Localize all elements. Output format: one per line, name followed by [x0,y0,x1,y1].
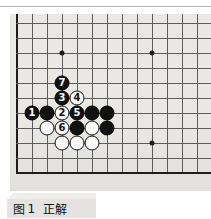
figure-caption: 图 1 正解 [7,199,96,218]
stone-black[interactable] [40,106,55,121]
move-number: 6 [59,123,66,133]
move-number: 1 [29,108,36,118]
grid-line-horizontal [16,83,211,84]
stone-black[interactable] [100,121,115,136]
star-point [150,51,155,56]
grid-line-horizontal [16,38,211,39]
grid-line-horizontal [16,53,211,54]
caption-prefix: 图 [13,200,26,217]
grid-line-horizontal [16,158,211,159]
stone-black-move-7[interactable]: 7 [55,76,70,91]
board-edge-bottom [16,172,211,174]
caption-title: 正解 [43,200,68,217]
star-point [60,51,65,56]
stone-white[interactable] [85,121,100,136]
grid-line-horizontal [16,143,211,144]
stone-black[interactable] [70,121,85,136]
grid-line-horizontal [16,98,211,99]
move-number: 3 [59,93,66,103]
grid-line-horizontal [16,23,211,24]
caption-number: 1 [28,202,36,216]
stone-white[interactable] [70,136,85,151]
figure-container: 1253476 图 1 正解 [0,0,211,219]
stone-black-move-5[interactable]: 5 [70,106,85,121]
move-number: 7 [59,78,66,88]
stone-black-move-3[interactable]: 3 [55,91,70,106]
stone-black[interactable] [85,106,100,121]
grid-line-horizontal [16,68,211,69]
stone-white-move-4[interactable]: 4 [70,91,85,106]
stone-white[interactable] [85,136,100,151]
stone-white-move-2[interactable]: 2 [55,106,70,121]
move-number: 2 [59,108,66,118]
page-top-rule [0,6,211,7]
stone-white[interactable] [40,121,55,136]
move-number: 5 [74,108,81,118]
stone-white-move-6[interactable]: 6 [55,121,70,136]
stone-black[interactable] [100,106,115,121]
stone-white[interactable] [55,136,70,151]
board-background [10,14,211,191]
move-number: 4 [74,93,81,103]
go-board[interactable]: 1253476 [10,14,211,191]
star-point [150,141,155,146]
stone-black-move-1[interactable]: 1 [25,106,40,121]
